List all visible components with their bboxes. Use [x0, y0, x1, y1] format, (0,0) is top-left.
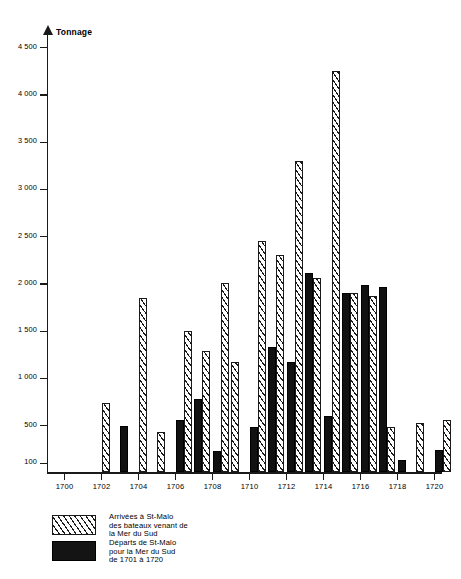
bar-arrivals-1702: [102, 403, 110, 472]
bar-departures-1711: [268, 347, 276, 473]
bar-arrivals-1709: [231, 362, 239, 473]
legend-label: Arrivées à St-Malodes bateaux venant del…: [109, 513, 188, 539]
bar-arrivals-1711: [276, 255, 284, 472]
bar-departures-1714: [324, 416, 332, 473]
bar-departures-1713: [305, 273, 313, 472]
x-tick-1700: 1700: [64, 473, 65, 480]
x-tick-1714: 1714: [323, 473, 324, 480]
bar-departures-1716: [361, 285, 369, 472]
bar-arrivals-1706: [184, 331, 192, 473]
x-tick-label: 1714: [315, 482, 333, 491]
bar-series-container: [0, 0, 461, 473]
x-tick-1716: 1716: [360, 473, 361, 480]
x-tick-label: 1706: [167, 482, 185, 491]
bar-arrivals-1719: [416, 423, 424, 472]
plot-area: Tonnage 4 5004 0003 5003 0002 5002 0001 …: [0, 0, 461, 500]
bar-arrivals-1720: [443, 420, 451, 473]
bar-arrivals-1707: [202, 351, 210, 472]
bar-departures-1708: [213, 451, 221, 473]
x-tick-label: 1716: [352, 482, 370, 491]
bar-departures-1717: [379, 287, 387, 472]
bar-arrivals-1710: [258, 241, 266, 473]
chart-legend: Arrivées à St-Malodes bateaux venant del…: [47, 515, 347, 567]
chart-figure: Tonnage 4 5004 0003 5003 0002 5002 0001 …: [0, 0, 461, 579]
bar-arrivals-1716: [369, 296, 377, 473]
bar-arrivals-1705: [157, 432, 165, 473]
bar-departures-1706: [176, 420, 184, 472]
bar-arrivals-1708: [221, 283, 229, 472]
x-tick-1704: 1704: [138, 473, 139, 480]
x-tick-label: 1708: [204, 482, 222, 491]
x-tick-label: 1720: [426, 482, 444, 491]
legend-swatch-hatched: [52, 515, 96, 535]
x-tick-label: 1704: [130, 482, 148, 491]
x-tick-label: 1702: [93, 482, 111, 491]
x-tick-label: 1718: [389, 482, 407, 491]
bar-departures-1718: [398, 460, 406, 472]
bar-departures-1710: [250, 427, 258, 472]
bar-arrivals-1704: [139, 298, 147, 473]
bar-departures-1712: [287, 362, 295, 473]
legend-item-arrivals: Arrivées à St-Malodes bateaux venant del…: [47, 515, 347, 541]
x-tick-1708: 1708: [212, 473, 213, 480]
bar-arrivals-1712: [295, 161, 303, 473]
legend-item-departures: Départs de St-Malopour la Mer du Sudde 1…: [47, 541, 347, 567]
x-tick-label: 1712: [278, 482, 296, 491]
x-tick-1706: 1706: [175, 473, 176, 480]
legend-label: Départs de St-Malopour la Mer du Sudde 1…: [109, 539, 176, 565]
x-tick-1720: 1720: [434, 473, 435, 480]
bar-arrivals-1713: [313, 278, 321, 473]
bar-arrivals-1715: [350, 293, 358, 473]
bar-arrivals-1714: [332, 71, 340, 473]
bar-departures-1707: [194, 399, 202, 473]
x-tick-1702: 1702: [101, 473, 102, 480]
bar-arrivals-1717: [387, 427, 395, 472]
x-tick-1712: 1712: [286, 473, 287, 480]
bar-departures-1715: [342, 293, 350, 473]
x-tick-label: 1700: [56, 482, 74, 491]
bar-departures-1703: [120, 426, 128, 472]
x-tick-1718: 1718: [397, 473, 398, 480]
legend-label-line: de 1701 à 1720: [109, 556, 176, 565]
x-tick-label: 1710: [241, 482, 259, 491]
x-tick-1710: 1710: [249, 473, 250, 480]
bar-departures-1720: [435, 450, 443, 473]
legend-swatch-solid: [52, 541, 96, 561]
